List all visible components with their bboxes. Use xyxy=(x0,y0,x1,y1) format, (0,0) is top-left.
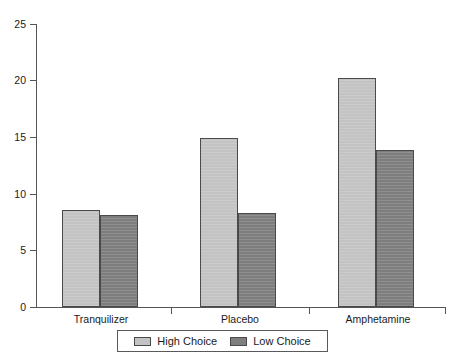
y-tick-label-10: 10 xyxy=(4,189,26,200)
legend-label-low-choice: Low Choice xyxy=(253,335,310,347)
bar-amphetamine-low-choice xyxy=(376,150,414,307)
y-tick-label-20: 20 xyxy=(4,75,26,86)
bar-placebo-low-choice xyxy=(238,213,276,307)
legend-label-high-choice: High Choice xyxy=(157,335,217,347)
plot-area xyxy=(36,24,446,307)
bar-chart: 25 20 15 10 5 0 Tranquilizer Placebo Amp… xyxy=(0,0,453,364)
bar-tranquilizer-low-choice xyxy=(100,215,138,307)
bar-amphetamine-high-choice xyxy=(338,78,376,307)
high-choice-swatch-icon xyxy=(134,337,151,346)
y-tick-label-5: 5 xyxy=(4,245,26,256)
y-tick-label-25: 25 xyxy=(4,19,26,30)
x-tick-3 xyxy=(445,308,446,314)
x-tick-2 xyxy=(309,308,310,314)
legend-entry-high-choice: High Choice xyxy=(134,335,217,347)
x-label-amphetamine: Amphetamine xyxy=(331,313,425,325)
bar-placebo-high-choice xyxy=(200,138,238,307)
x-label-placebo: Placebo xyxy=(201,313,279,325)
x-tick-1 xyxy=(171,308,172,314)
x-label-tranquilizer: Tranquilizer xyxy=(62,313,140,325)
legend-entry-low-choice: Low Choice xyxy=(230,335,310,347)
y-tick-0 xyxy=(30,307,36,308)
chart-legend: High Choice Low Choice xyxy=(117,330,328,352)
bar-tranquilizer-high-choice xyxy=(62,210,100,307)
low-choice-swatch-icon xyxy=(230,337,247,346)
x-axis-line xyxy=(36,307,446,308)
y-tick-label-15: 15 xyxy=(4,132,26,143)
y-tick-label-0: 0 xyxy=(4,302,26,313)
